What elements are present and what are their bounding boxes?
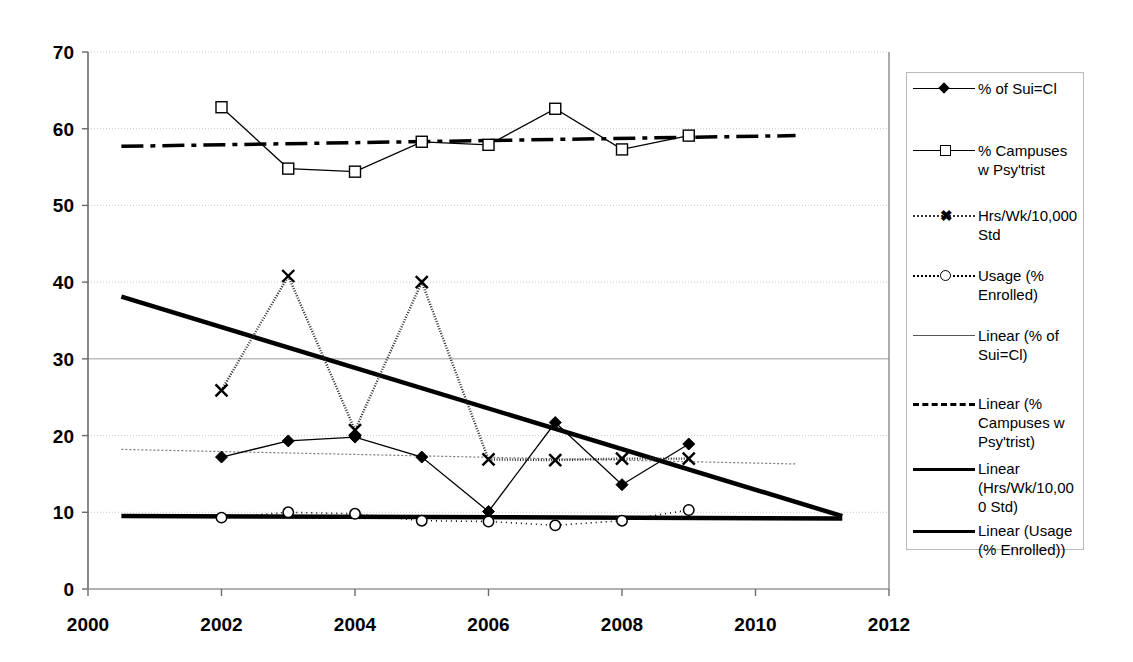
datapoint-1-7: [683, 130, 694, 141]
datapoint-2-0: [216, 384, 228, 396]
legend-swatch-6: [913, 459, 975, 479]
trendlines-group: [121, 136, 842, 519]
legend-swatch-0: [913, 79, 975, 99]
chart-legend: % of Sui=Cl% Campuses w Psy'trist✖Hrs/Wk…: [906, 72, 1084, 550]
y-tick-label-30: 30: [53, 349, 74, 370]
y-tick-label-20: 20: [53, 426, 74, 447]
legend-items-list: % of Sui=Cl% Campuses w Psy'trist✖Hrs/Wk…: [907, 73, 1083, 549]
legend-line-7: [913, 530, 975, 533]
legend-label-4: Linear (% of Sui=Cl): [975, 326, 1059, 364]
y-tick-label-70: 70: [53, 42, 74, 63]
legend-label-0: % of Sui=Cl: [975, 79, 1057, 98]
datapoint-2-3: [416, 276, 428, 288]
legend-swatch-5: [913, 394, 975, 414]
datapoint-3-5: [550, 520, 560, 530]
x-tick-label-2004: 2004: [334, 614, 377, 635]
datapoint-1-4: [483, 139, 494, 150]
datapoint-0-1: [282, 435, 294, 447]
y-tick-label-10: 10: [53, 502, 74, 523]
series-markers-group: [216, 102, 695, 531]
y-axis-tick-labels: 010203040506070: [53, 42, 74, 600]
legend-x-marker-icon: ✖: [940, 210, 953, 222]
x-tick-label-2002: 2002: [200, 614, 242, 635]
legend-label-3: Usage (% Enrolled): [975, 266, 1044, 304]
datapoint-3-2: [350, 509, 360, 519]
datapoint-3-6: [617, 516, 627, 526]
y-tick-label-0: 0: [63, 579, 74, 600]
x-tick-label-2010: 2010: [734, 614, 776, 635]
legend-square-marker-icon: [940, 145, 951, 156]
legend-swatch-3: [913, 266, 975, 286]
datapoint-1-3: [416, 136, 427, 147]
legend-line-4: [913, 335, 975, 336]
y-tick-label-60: 60: [53, 119, 74, 140]
datapoint-1-1: [283, 163, 294, 174]
x-axis-tick-labels: 2000200220042006200820102012: [67, 614, 910, 635]
trendline-2: [121, 297, 842, 516]
legend-label-1: % Campuses w Psy'trist: [975, 141, 1067, 179]
datapoint-3-7: [684, 505, 694, 515]
datapoint-2-1: [282, 270, 294, 282]
x-tick-label-2006: 2006: [467, 614, 509, 635]
datapoint-1-6: [617, 144, 628, 155]
x-tick-label-2008: 2008: [601, 614, 643, 635]
legend-item-7[interactable]: Linear (Usage (% Enrolled)): [913, 521, 1081, 559]
series-line-2: [222, 276, 689, 460]
legend-label-6: Linear (Hrs/Wk/10,00 0 Std): [975, 459, 1074, 516]
legend-line-5: [913, 403, 975, 406]
datapoint-1-2: [350, 166, 361, 177]
legend-label-5: Linear (% Campuses w Psy'trist): [975, 394, 1065, 451]
datapoint-3-3: [417, 516, 427, 526]
legend-label-2: Hrs/Wk/10,000 Std: [975, 206, 1077, 244]
legend-item-3[interactable]: Usage (% Enrolled): [913, 266, 1081, 304]
legend-item-4[interactable]: Linear (% of Sui=Cl): [913, 326, 1081, 364]
trendline-3: [121, 516, 842, 518]
legend-swatch-4: [913, 326, 975, 346]
legend-circle-marker-icon: [940, 270, 951, 281]
datapoint-3-1: [283, 507, 293, 517]
legend-swatch-7: [913, 521, 975, 541]
x-tick-label-2000: 2000: [67, 614, 109, 635]
legend-item-0[interactable]: % of Sui=Cl: [913, 79, 1081, 99]
legend-item-6[interactable]: Linear (Hrs/Wk/10,00 0 Std): [913, 459, 1081, 516]
y-tick-label-50: 50: [53, 195, 74, 216]
datapoint-0-0: [216, 451, 228, 463]
legend-diamond-marker-icon: [938, 82, 949, 93]
legend-swatch-2: ✖: [913, 206, 975, 226]
datapoint-3-4: [483, 516, 493, 526]
datapoint-1-5: [550, 103, 561, 114]
datapoint-2-6: [616, 453, 628, 465]
datapoint-3-0: [216, 512, 226, 522]
datapoint-0-7: [683, 438, 695, 450]
x-tick-label-2012: 2012: [868, 614, 910, 635]
legend-label-7: Linear (Usage (% Enrolled)): [975, 521, 1072, 559]
legend-item-5[interactable]: Linear (% Campuses w Psy'trist): [913, 394, 1081, 451]
legend-item-2[interactable]: ✖Hrs/Wk/10,000 Std: [913, 206, 1081, 244]
chart-container: 010203040506070 200020022004200620082010…: [0, 0, 1133, 662]
legend-line-6: [913, 468, 975, 471]
legend-swatch-1: [913, 141, 975, 161]
datapoint-1-0: [216, 102, 227, 113]
y-tick-label-40: 40: [53, 272, 74, 293]
datapoint-2-4: [483, 453, 495, 465]
series-line-0: [222, 423, 689, 512]
legend-item-1[interactable]: % Campuses w Psy'trist: [913, 141, 1081, 179]
